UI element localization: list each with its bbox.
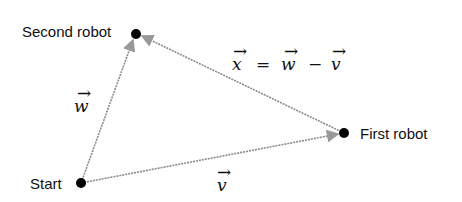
node-first-robot-dot xyxy=(339,128,349,138)
label-w: w → xyxy=(74,83,91,116)
vector-diagram: Start Second robot First robot w → v → x… xyxy=(0,0,462,202)
svg-text:→: → xyxy=(233,41,247,61)
label-v: v → xyxy=(217,162,231,195)
svg-text:−: − xyxy=(308,54,322,74)
label-start: Start xyxy=(30,175,63,192)
label-second-robot: Second robot xyxy=(22,23,112,40)
svg-text:=: = xyxy=(256,54,270,74)
node-second-robot-dot xyxy=(131,29,141,39)
svg-text:→: → xyxy=(332,41,346,61)
label-first-robot: First robot xyxy=(360,125,428,142)
svg-text:→: → xyxy=(217,162,231,182)
edge-w xyxy=(81,40,133,183)
label-equation: x → = w → − v → xyxy=(232,41,346,74)
svg-text:→: → xyxy=(284,41,298,61)
edge-v xyxy=(81,134,338,183)
node-start-dot xyxy=(76,178,86,188)
svg-text:→: → xyxy=(77,83,91,103)
